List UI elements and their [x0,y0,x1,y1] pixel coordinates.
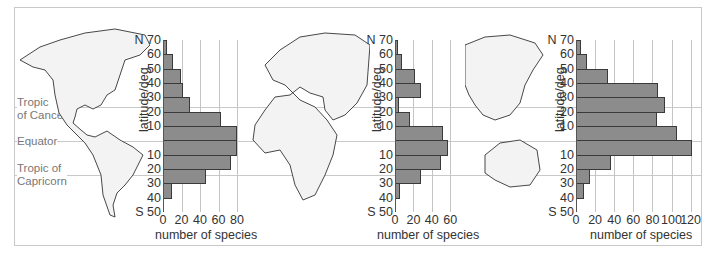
x-tick-label: 80 [222,214,252,226]
bar-10-20N [395,112,410,127]
y-tick-label: 30 [538,91,574,103]
y-tick-label: 40 [538,77,574,89]
y-tick-label: 20 [538,163,574,175]
bar-20-30S [395,169,421,184]
y-tick-label: 20 [538,106,574,118]
y-tick-label: 50 [357,63,393,75]
bar-10-20N [163,112,221,127]
y-tick-label: 40 [125,77,161,89]
bar-40-50N [576,69,608,84]
y-tick-label: 60 [538,48,574,60]
bar-30-40N [576,83,658,98]
y-tick-label: 30 [357,177,393,189]
bar-0-10N [576,126,677,141]
x-tick-label: 120 [676,214,706,226]
bar-20-30N [163,97,190,112]
bar-50-60N [163,54,173,69]
y-tick-label: 20 [125,163,161,175]
y-tick-label: 10 [357,120,393,132]
y-tick-label: N 70 [538,34,574,46]
y-tick-label: 20 [125,106,161,118]
bar-0-10N [163,126,237,141]
gridline [237,40,238,212]
bar-0-10S [163,140,237,155]
bar-20-30S [576,169,590,184]
y-tick-label: 30 [125,91,161,103]
europe-africa-map [245,25,370,205]
y-tick-label: 30 [538,177,574,189]
bar-30-40N [395,83,421,98]
bar-10-20S [395,155,441,170]
y-tick-label: 50 [125,63,161,75]
y-tick-label: 40 [357,192,393,204]
y-axis-line [163,40,164,212]
y-tick-label: 60 [125,48,161,60]
y-tick-label: 10 [538,149,574,161]
y-axis-line [576,40,577,212]
bar-0-10N [395,126,443,141]
gridline [450,40,451,212]
bar-10-20S [576,155,611,170]
y-tick-label: 20 [357,163,393,175]
y-tick-label: 10 [125,149,161,161]
x-axis-label: number of species [590,228,685,242]
asia-australasia-map [465,25,545,210]
bar-10-20S [163,155,231,170]
bar-40-50N [395,69,415,84]
bar-20-30N [576,97,665,112]
bar-0-10S [576,140,692,155]
gridline [691,40,692,212]
x-axis-label: number of species [155,228,250,242]
bar-50-60N [395,54,402,69]
y-tick-label: 30 [125,177,161,189]
x-tick-label: 60 [435,214,465,226]
y-tick-label: 10 [538,120,574,132]
y-tick-label: 40 [125,192,161,204]
bar-50-60N [576,54,587,69]
bar-30-40S [576,183,584,198]
y-axis-line [395,40,396,212]
y-tick-label: 10 [357,149,393,161]
x-axis-label: number of species [377,228,472,242]
y-tick-label: 20 [357,106,393,118]
plot-area [395,40,450,212]
bar-30-40S [163,183,172,198]
y-tick-label: N 70 [357,34,393,46]
bar-20-30S [163,169,206,184]
y-tick-label: N 70 [125,34,161,46]
plot-area [163,40,237,212]
y-tick-label: 60 [357,48,393,60]
bar-0-10S [395,140,448,155]
bar-40-50N [163,69,181,84]
plot-area [576,40,691,212]
y-tick-label: 10 [125,120,161,132]
y-tick-label: 30 [357,91,393,103]
y-tick-label: 50 [538,63,574,75]
bar-30-40N [163,83,183,98]
y-tick-label: 40 [538,192,574,204]
y-tick-label: 40 [357,77,393,89]
bar-10-20N [576,112,657,127]
